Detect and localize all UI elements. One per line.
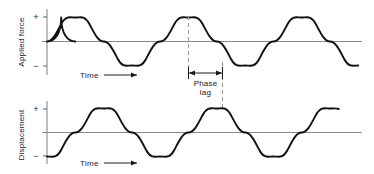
y-axis-label-displacement: Displacement [17,109,26,160]
phase-lag-diagram: Applied force + − Time [0,0,374,174]
panel-applied-force: Applied force + − Time [17,9,362,80]
y-tick-negative-displacement: − [33,151,38,161]
y-axis-label-applied-force: Applied force [17,17,26,67]
phase-lag-double-arrow [189,71,222,76]
x-axis-label-displacement: Time [80,159,99,168]
time-arrow-displacement [104,161,137,166]
y-tick-positive-applied-force: + [33,12,38,22]
y-tick-positive-displacement: + [33,104,38,114]
y-tick-negative-applied-force: − [33,61,38,71]
x-axis-label-applied-force: Time [80,71,99,80]
panel-displacement: Displacement + − Time [17,101,362,168]
phase-lag-label-line2: lag [200,88,211,97]
time-arrow-applied-force [104,73,137,78]
phase-lag-label-line1: Phase [194,79,218,88]
diagram-canvas: Applied force + − Time [0,0,374,174]
